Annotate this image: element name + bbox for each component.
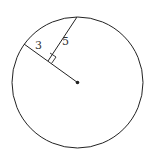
label-radius-segment: 3	[35, 40, 42, 51]
label-perpendicular-segment: 5	[62, 36, 69, 47]
right-angle-mark	[50, 53, 56, 64]
circle-diagram	[0, 0, 152, 156]
radius-line	[24, 44, 78, 83]
center-point	[76, 81, 80, 85]
